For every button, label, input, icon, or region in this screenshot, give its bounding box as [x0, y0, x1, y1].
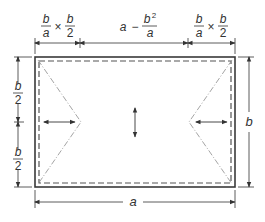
- times-symbol: ×: [207, 20, 214, 34]
- superscript: 2: [152, 11, 157, 20]
- frac-denominator: 2: [67, 26, 74, 40]
- label-top-left: b a × b 2: [41, 12, 75, 40]
- frac-denominator: a: [43, 26, 50, 40]
- frac-denominator: 2: [15, 159, 22, 173]
- frac-denominator: 2: [220, 26, 227, 40]
- frac-numerator: b: [15, 79, 22, 93]
- frac-numerator: b: [67, 12, 74, 26]
- label-top-right: b a × b 2: [194, 12, 228, 40]
- top-dimension: [35, 38, 235, 54]
- label-left-upper: b 2: [13, 79, 23, 107]
- plate-diagram: b a × b 2 a − b 2 a b a × b 2 b 2 b 2 b: [0, 0, 265, 222]
- label-top-middle: a − b 2 a: [120, 11, 157, 40]
- frac-numerator: b: [15, 145, 22, 159]
- frac-denominator: a: [196, 26, 203, 40]
- a-symbol: a: [120, 20, 127, 34]
- frac-numerator: b: [220, 12, 227, 26]
- minus-symbol: −: [131, 20, 138, 34]
- label-bottom-a: a: [129, 194, 136, 209]
- frac-denominator: 2: [15, 93, 22, 107]
- frac-numerator: b: [196, 12, 203, 26]
- label-right-b: b: [245, 114, 252, 129]
- times-symbol: ×: [54, 20, 61, 34]
- frac-numerator: b: [144, 12, 151, 26]
- label-left-lower: b 2: [13, 145, 23, 173]
- frac-numerator: b: [43, 12, 50, 26]
- frac-denominator: a: [147, 26, 154, 40]
